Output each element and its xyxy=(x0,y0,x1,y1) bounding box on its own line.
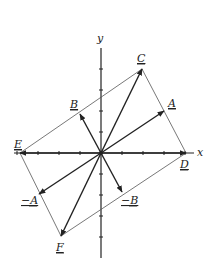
axes: xy xyxy=(14,32,204,258)
vector-neg-B xyxy=(101,153,122,192)
vectors xyxy=(20,69,186,236)
y-axis-label: y xyxy=(96,32,104,45)
origin-dot xyxy=(99,151,103,155)
vector-label-C: C xyxy=(137,52,146,65)
vector-diagram: xy ABCDEF−A−B xyxy=(0,0,218,259)
vector-label-B: B xyxy=(69,98,78,111)
vector-label-neg-A: −A xyxy=(21,194,38,207)
x-axis-label: x xyxy=(197,146,204,159)
parallelogram-edge-E-C xyxy=(20,69,142,153)
vector-A xyxy=(101,111,164,153)
vector-label-neg-B: −B xyxy=(121,194,138,207)
vector-label-F: F xyxy=(55,241,64,254)
vector-B xyxy=(80,114,101,153)
vector-label-A: A xyxy=(167,97,176,110)
vector-label-E: E xyxy=(13,138,22,151)
vector-label-D: D xyxy=(179,158,189,171)
vector-C xyxy=(101,69,142,153)
